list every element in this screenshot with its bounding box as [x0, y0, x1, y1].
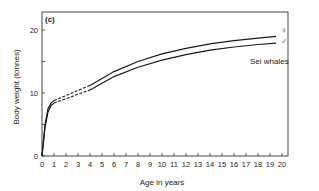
male-curve-dashed: [54, 90, 90, 103]
x-tick-label: 1: [52, 160, 56, 169]
y-tick-label: 20: [30, 26, 38, 35]
x-axis-label: Age in years: [140, 178, 184, 187]
y-axis-ticks: 01020: [30, 26, 45, 161]
x-tick-label: 12: [182, 160, 190, 169]
x-axis-ticks: 01234567891011121314151617181920: [40, 153, 286, 169]
growth-chart: 01234567891011121314151617181920 01020 (…: [0, 0, 319, 191]
female-curve-dashed: [54, 85, 90, 100]
male-symbol: ♂: [281, 37, 287, 46]
sei-whales-annotation: Sei whales: [250, 57, 289, 66]
male-curve: [90, 43, 276, 90]
x-tick-label: 13: [194, 160, 202, 169]
x-tick-label: 8: [136, 160, 140, 169]
x-tick-label: 17: [242, 160, 250, 169]
plot-frame: [42, 12, 288, 156]
y-axis-label: Body weight (tonnes): [12, 49, 21, 124]
x-tick-label: 4: [88, 160, 92, 169]
x-tick-label: 9: [148, 160, 152, 169]
x-tick-label: 3: [76, 160, 80, 169]
female-curve: [90, 36, 276, 85]
x-tick-label: 18: [254, 160, 262, 169]
x-tick-label: 6: [112, 160, 116, 169]
data-series: [42, 36, 276, 156]
x-tick-label: 2: [64, 160, 68, 169]
x-tick-label: 11: [170, 160, 178, 169]
x-tick-label: 20: [278, 160, 286, 169]
x-tick-label: 7: [124, 160, 128, 169]
x-tick-label: 5: [100, 160, 104, 169]
y-tick-label: 10: [30, 89, 38, 98]
male-curve-early: [42, 103, 54, 156]
x-tick-label: 14: [206, 160, 214, 169]
x-tick-label: 10: [158, 160, 166, 169]
y-tick-label: 0: [34, 152, 38, 161]
x-tick-label: 0: [40, 160, 44, 169]
panel-label: (c): [45, 15, 55, 24]
x-tick-label: 16: [230, 160, 238, 169]
x-tick-label: 15: [218, 160, 226, 169]
female-curve-early: [42, 101, 54, 156]
x-tick-label: 19: [266, 160, 274, 169]
female-symbol: ♀: [281, 26, 287, 35]
